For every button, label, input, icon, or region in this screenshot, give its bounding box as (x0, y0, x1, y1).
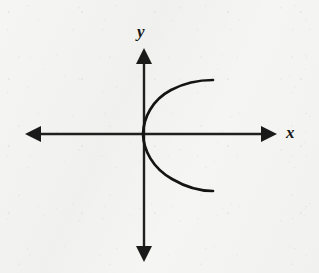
x-axis-label: x (286, 124, 295, 141)
parabola-lower-branch (143, 134, 213, 191)
y-axis-bottom-arrowhead (136, 246, 152, 262)
x-axis-group (25, 126, 277, 142)
coordinate-plane-plot (0, 0, 319, 273)
parabola-curve-group (143, 80, 213, 191)
x-axis-left-arrowhead (25, 126, 41, 142)
y-axis-label: y (137, 23, 145, 40)
figure-canvas: y x (0, 0, 319, 273)
parabola-upper-branch (143, 80, 213, 134)
y-axis-top-arrowhead (136, 48, 152, 64)
x-axis-right-arrowhead (261, 126, 277, 142)
